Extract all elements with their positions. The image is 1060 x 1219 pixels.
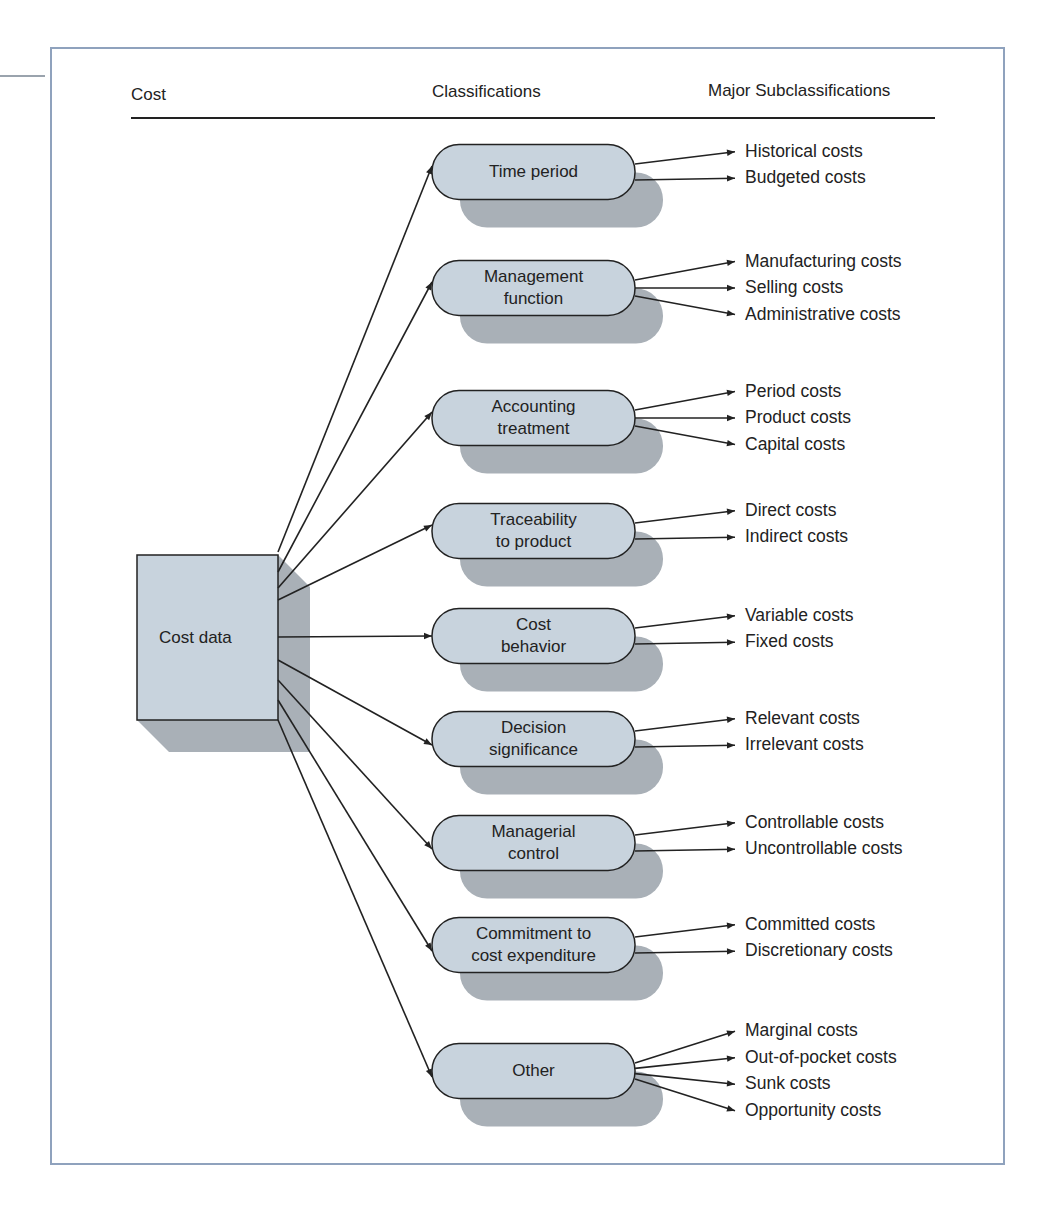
root-to-node-arrow: [278, 720, 432, 1077]
subclassification-label: Historical costs: [745, 141, 863, 161]
subclassification-label: Discretionary costs: [745, 940, 893, 960]
subclassification-label: Period costs: [745, 381, 841, 401]
subclassification-label: Uncontrollable costs: [745, 838, 903, 858]
classification-label: Time period: [432, 145, 635, 200]
subclassification-label: Manufacturing costs: [745, 251, 902, 271]
classification-label: Commitment tocost expenditure: [432, 918, 635, 973]
subclassification-label: Irrelevant costs: [745, 734, 864, 754]
root-label: Cost data: [159, 628, 232, 648]
root-to-node-arrow: [278, 700, 432, 951]
subclassification-label: Relevant costs: [745, 708, 860, 728]
subclassification-label: Direct costs: [745, 500, 836, 520]
node-to-sub-arrow: [635, 392, 735, 411]
subclassification-label: Fixed costs: [745, 631, 834, 651]
node-to-sub-arrow: [635, 1031, 735, 1063]
node-to-sub-arrow: [635, 262, 735, 281]
root-to-node-arrow: [278, 636, 432, 637]
node-to-sub-arrow: [635, 823, 735, 835]
node-to-sub-arrow: [635, 511, 735, 523]
subclassification-label: Controllable costs: [745, 812, 884, 832]
subclassification-label: Product costs: [745, 407, 851, 427]
subclassification-label: Capital costs: [745, 434, 845, 454]
subclassification-label: Selling costs: [745, 277, 843, 297]
classification-label: Accountingtreatment: [432, 391, 635, 446]
node-to-sub-arrow: [635, 152, 735, 164]
root-to-node-arrow: [278, 680, 432, 849]
node-to-sub-arrow: [635, 616, 735, 628]
classification-label: Decisionsignificance: [432, 712, 635, 767]
node-to-sub-arrow: [635, 1058, 735, 1069]
node-to-sub-arrow: [635, 925, 735, 937]
root-to-node-arrow: [278, 166, 432, 552]
root-to-node-arrow: [278, 412, 432, 588]
root-to-node-arrow: [278, 282, 432, 572]
classification-label: Traceabilityto product: [432, 504, 635, 559]
subclassification-label: Out-of-pocket costs: [745, 1047, 897, 1067]
subclassification-label: Indirect costs: [745, 526, 848, 546]
subclassification-label: Sunk costs: [745, 1073, 831, 1093]
node-to-sub-arrow: [635, 719, 735, 731]
classification-label: Managerialcontrol: [432, 816, 635, 871]
subclassification-label: Marginal costs: [745, 1020, 858, 1040]
subclassification-label: Variable costs: [745, 605, 854, 625]
classification-label: Other: [432, 1044, 635, 1099]
classification-label: Costbehavior: [432, 609, 635, 664]
classification-label: Managementfunction: [432, 261, 635, 316]
subclassification-label: Administrative costs: [745, 304, 901, 324]
subclassification-label: Opportunity costs: [745, 1100, 881, 1120]
subclassification-label: Committed costs: [745, 914, 875, 934]
subclassification-label: Budgeted costs: [745, 167, 866, 187]
